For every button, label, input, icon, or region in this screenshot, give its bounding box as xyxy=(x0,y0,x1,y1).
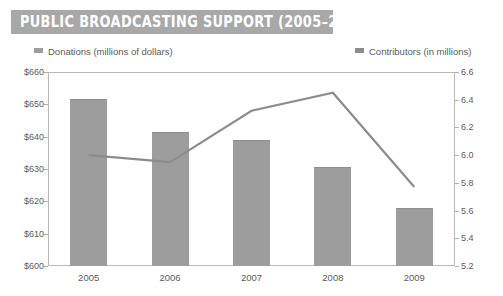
y-axis-left-tick-mark xyxy=(44,72,48,73)
y-axis-left-tick-label: $610 xyxy=(4,229,44,239)
bar-donations-2009 xyxy=(396,208,433,266)
y-axis-right-tick-mark xyxy=(455,72,459,73)
y-axis-right-tick-label: 5.6 xyxy=(461,206,491,216)
y-axis-right-tick-label: 6.0 xyxy=(461,150,491,160)
legend-label-contributors: Contributors (in millions) xyxy=(369,45,471,59)
x-axis-tick-label: 2006 xyxy=(135,272,205,284)
legend-swatch-donations xyxy=(34,48,43,53)
y-axis-left-tick-mark xyxy=(44,266,48,267)
y-axis-right-tick-label: 5.2 xyxy=(461,261,491,271)
x-axis-tick-label: 2005 xyxy=(54,272,124,284)
y-axis-right-tick-label: 6.6 xyxy=(461,67,491,77)
y-axis-left-tick-mark xyxy=(44,201,48,202)
x-axis-tick-label: 2009 xyxy=(379,272,449,284)
y-axis-right-tick-mark xyxy=(455,100,459,101)
y-axis-right-tick-mark xyxy=(455,127,459,128)
legend-label-donations: Donations (millions of dollars) xyxy=(48,45,173,59)
y-axis-left-tick-label: $600 xyxy=(4,261,44,271)
bar-donations-2008 xyxy=(314,167,351,266)
y-axis-right-tick-mark xyxy=(455,211,459,212)
y-axis-left-tick-label: $620 xyxy=(4,196,44,206)
y-axis-left-tick-label: $640 xyxy=(4,132,44,142)
chart-figure: PUBLIC BROADCASTING SUPPORT (2005–2009) … xyxy=(0,0,503,296)
y-axis-left-tick-label: $630 xyxy=(4,164,44,174)
y-axis-right-tick-label: 6.4 xyxy=(461,95,491,105)
legend-swatch-contributors xyxy=(355,48,364,53)
x-axis-tick-label: 2007 xyxy=(217,272,287,284)
y-axis-right-tick-label: 6.2 xyxy=(461,122,491,132)
y-axis-left-tick-mark xyxy=(44,104,48,105)
bar-donations-2006 xyxy=(152,132,189,266)
y-axis-right-tick-mark xyxy=(455,155,459,156)
y-axis-right-tick-mark xyxy=(455,183,459,184)
y-axis-right-tick-label: 5.4 xyxy=(461,233,491,243)
y-axis-left-tick-mark xyxy=(44,234,48,235)
y-axis-right-tick-mark xyxy=(455,238,459,239)
chart-title: PUBLIC BROADCASTING SUPPORT (2005–2009) xyxy=(20,13,287,32)
legend-item-contributors: Contributors (in millions) xyxy=(355,45,471,59)
y-axis-left-tick-mark xyxy=(44,137,48,138)
y-axis-right-tick-mark xyxy=(455,266,459,267)
y-axis-left-tick-label: $650 xyxy=(4,99,44,109)
y-axis-left-tick-label: $660 xyxy=(4,67,44,77)
bar-donations-2005 xyxy=(70,99,107,266)
y-axis-left-tick-mark xyxy=(44,169,48,170)
x-axis-tick-label: 2008 xyxy=(298,272,368,284)
y-axis-right-tick-label: 5.8 xyxy=(461,178,491,188)
bar-donations-2007 xyxy=(233,140,270,266)
legend-item-donations: Donations (millions of dollars) xyxy=(34,45,173,59)
